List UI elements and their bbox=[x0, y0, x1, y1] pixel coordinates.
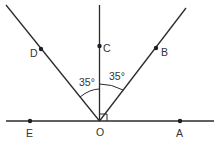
label-b: B bbox=[161, 46, 168, 58]
label-o: O bbox=[96, 126, 104, 138]
ray-ob bbox=[100, 8, 187, 121]
point-e bbox=[28, 119, 32, 123]
angle-arc-cob bbox=[100, 84, 124, 90]
angle-diagram: 35° 35° E O A C B D bbox=[0, 0, 214, 151]
label-e: E bbox=[26, 127, 33, 139]
point-c bbox=[97, 44, 101, 48]
label-d: D bbox=[30, 47, 38, 59]
angle-arc-doc bbox=[80, 89, 100, 97]
point-b bbox=[154, 46, 158, 50]
label-a: A bbox=[176, 127, 183, 139]
label-c: C bbox=[103, 42, 111, 54]
ray-od bbox=[6, 5, 100, 121]
point-a bbox=[178, 119, 182, 123]
angle-label-doc: 35° bbox=[79, 76, 95, 88]
point-d bbox=[39, 47, 43, 51]
angle-label-cob: 35° bbox=[109, 70, 125, 82]
